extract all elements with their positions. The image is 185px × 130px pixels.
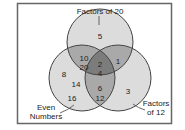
region-all-three-value: 2 bbox=[98, 60, 103, 69]
region-left-right-value: 12 bbox=[96, 94, 105, 103]
region-left-only-value: 8 bbox=[62, 70, 67, 79]
region-left-only-value: 16 bbox=[68, 94, 77, 103]
label-even-line1: Even bbox=[37, 103, 55, 112]
label-factors-of-12-line1: Factors bbox=[143, 99, 170, 108]
region-right-only-value: 3 bbox=[126, 87, 131, 96]
label-factors-of-20: Factors of 20 bbox=[77, 7, 124, 16]
venn-diagram: Factors of 20 Even Numbers Factors of 12… bbox=[0, 0, 185, 130]
region-left-right-value: 6 bbox=[98, 84, 103, 93]
region-top-left-value: 20 bbox=[80, 63, 89, 72]
region-all-three-value: 4 bbox=[98, 69, 103, 78]
region-top-left-value: 10 bbox=[80, 54, 89, 63]
region-top-only-value: 5 bbox=[98, 32, 103, 41]
region-left-only-value: 14 bbox=[72, 80, 81, 89]
label-factors-of-12-line2: of 12 bbox=[147, 108, 165, 117]
region-top-right-value: 1 bbox=[116, 57, 121, 66]
label-even-line2: Numbers bbox=[30, 112, 62, 121]
